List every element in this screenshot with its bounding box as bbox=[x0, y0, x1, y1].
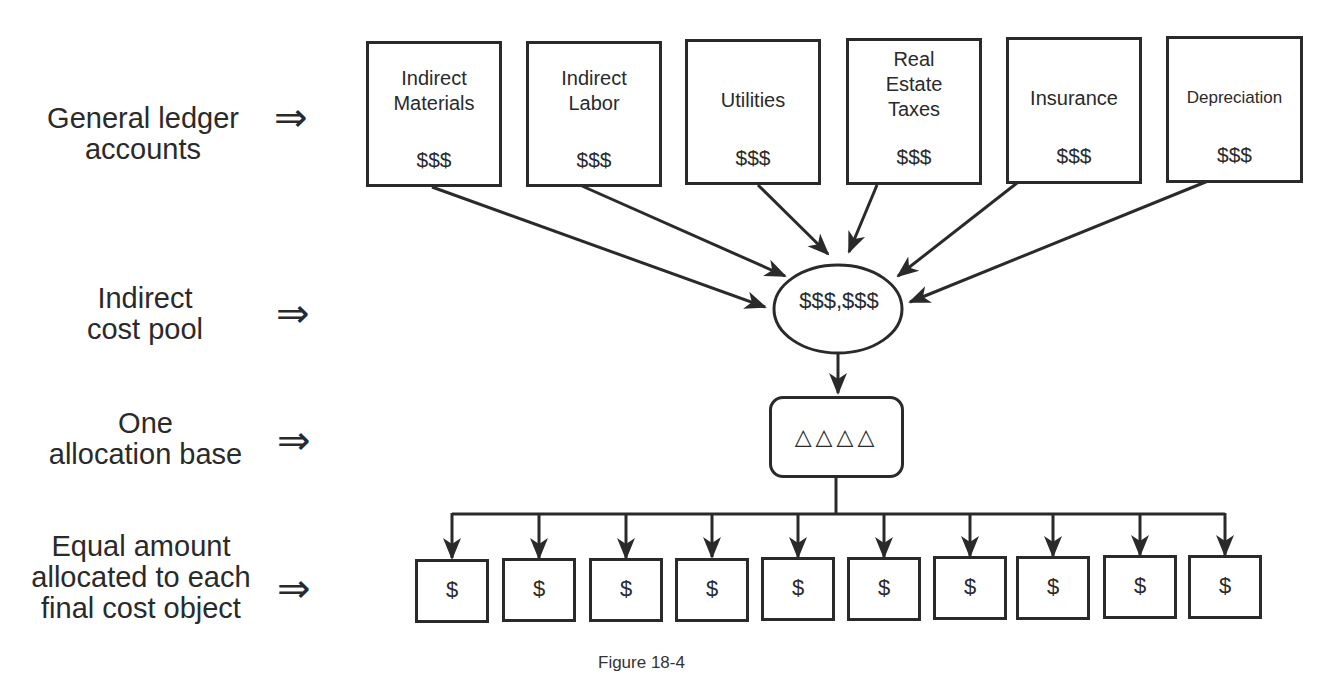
account-box-utilities: Utilities $$$ bbox=[685, 39, 821, 185]
account-box-depreciation: Depreciation $$$ bbox=[1166, 36, 1303, 183]
arrow-realestate bbox=[849, 185, 877, 252]
implies-arrow-icon: ⇒ bbox=[276, 293, 310, 333]
account-name-line: Labor bbox=[529, 91, 659, 116]
account-amount: $$$ bbox=[1009, 144, 1139, 168]
label-equal-amount-allocated: Equal amount allocated to each final cos… bbox=[16, 531, 266, 624]
account-name-line: Taxes bbox=[849, 97, 979, 122]
label-line: allocated to each bbox=[16, 562, 266, 593]
triangle-icon: △△△△ bbox=[795, 424, 879, 449]
label-one-allocation-base: One allocation base bbox=[38, 408, 253, 470]
account-name: Utilities bbox=[688, 88, 818, 113]
account-amount: $$$ bbox=[688, 146, 818, 170]
cost-object-box: $ bbox=[1188, 555, 1262, 619]
cost-object-box: $ bbox=[847, 557, 921, 621]
allocation-base-box: △△△△ bbox=[769, 396, 904, 478]
label-line: allocation base bbox=[38, 439, 253, 470]
cost-object-box: $ bbox=[933, 556, 1007, 620]
account-amount: $$$ bbox=[1169, 143, 1300, 167]
label-line: General ledger bbox=[28, 103, 258, 134]
account-box-indirect-labor: Indirect Labor $$$ bbox=[526, 41, 662, 187]
account-name-line: Depreciation bbox=[1169, 85, 1300, 110]
label-line: final cost object bbox=[16, 593, 266, 624]
label-line: Indirect bbox=[80, 283, 210, 314]
account-box-insurance: Insurance $$$ bbox=[1006, 37, 1142, 184]
cost-object-box: $ bbox=[761, 557, 835, 621]
arrow-depreciation bbox=[910, 181, 1208, 302]
account-name-line: Real bbox=[849, 47, 979, 72]
arrow-materials bbox=[432, 187, 765, 307]
account-box-indirect-materials: Indirect Materials $$$ bbox=[366, 41, 502, 187]
cost-pool-amount: $$$,$$$ bbox=[774, 288, 904, 314]
figure-caption: Figure 18-4 bbox=[598, 653, 685, 673]
cost-object-box: $ bbox=[1016, 556, 1090, 620]
label-line: cost pool bbox=[80, 314, 210, 345]
label-line: One bbox=[38, 408, 253, 439]
implies-arrow-icon: ⇒ bbox=[277, 420, 311, 460]
cost-object-box: $ bbox=[502, 558, 576, 622]
account-name-line: Insurance bbox=[1009, 86, 1139, 111]
account-name: Real Estate Taxes bbox=[849, 47, 979, 122]
account-name: Indirect Labor bbox=[529, 66, 659, 116]
account-name: Depreciation bbox=[1169, 85, 1300, 110]
account-name: Indirect Materials bbox=[369, 66, 499, 116]
cost-object-box: $ bbox=[675, 558, 749, 622]
cost-object-box: $ bbox=[589, 558, 663, 622]
cost-object-box: $ bbox=[415, 559, 489, 623]
arrow-labor bbox=[582, 186, 785, 276]
account-amount: $$$ bbox=[369, 148, 499, 172]
account-box-real-estate-taxes: Real Estate Taxes $$$ bbox=[846, 38, 982, 185]
account-name: Insurance bbox=[1009, 86, 1139, 111]
label-general-ledger: General ledger accounts bbox=[28, 103, 258, 165]
account-amount: $$$ bbox=[849, 145, 979, 169]
label-indirect-cost-pool: Indirect cost pool bbox=[80, 283, 210, 345]
cost-object-box: $ bbox=[1103, 555, 1177, 619]
account-name-line: Estate bbox=[849, 72, 979, 97]
arrow-utilities bbox=[758, 185, 828, 254]
account-name-line: Indirect bbox=[529, 66, 659, 91]
account-name-line: Indirect bbox=[369, 66, 499, 91]
label-line: Equal amount bbox=[16, 531, 266, 562]
arrow-insurance bbox=[898, 183, 1017, 276]
implies-arrow-icon: ⇒ bbox=[277, 568, 311, 608]
account-name-line: Materials bbox=[369, 91, 499, 116]
account-amount: $$$ bbox=[529, 148, 659, 172]
implies-arrow-icon: ⇒ bbox=[274, 97, 308, 137]
label-line: accounts bbox=[28, 134, 258, 165]
account-name-line: Utilities bbox=[688, 88, 818, 113]
